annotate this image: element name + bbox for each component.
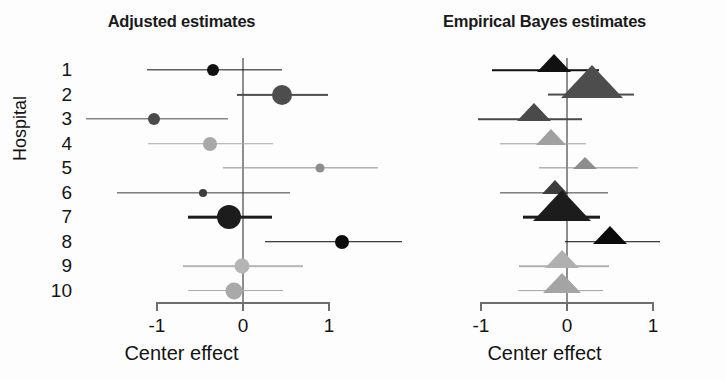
data-point-circle bbox=[335, 235, 349, 249]
data-point-triangle bbox=[536, 129, 566, 145]
y-category-label: 4 bbox=[28, 133, 72, 155]
x-axis-label: Center effect bbox=[363, 342, 726, 365]
data-point-triangle bbox=[517, 103, 551, 121]
y-category-label: 6 bbox=[28, 182, 72, 204]
y-category-label: 3 bbox=[28, 108, 72, 130]
data-point-circle bbox=[207, 64, 219, 76]
forest-plot-figure: Hospital Adjusted estimates -101Center e… bbox=[0, 0, 726, 380]
x-axis-tick bbox=[480, 302, 482, 311]
x-tick-label: 1 bbox=[324, 315, 335, 337]
panel-adjusted-estimates: Adjusted estimates -101Center effect1234… bbox=[0, 0, 363, 380]
y-category-label: 5 bbox=[28, 157, 72, 179]
y-category-label: 8 bbox=[28, 231, 72, 253]
x-axis-tick bbox=[566, 302, 568, 311]
y-category-label: 9 bbox=[28, 255, 72, 277]
data-point-circle bbox=[203, 137, 217, 151]
y-category-label: 7 bbox=[28, 206, 72, 228]
y-category-label: 2 bbox=[28, 84, 72, 106]
x-tick-label: 1 bbox=[648, 315, 659, 337]
data-point-triangle bbox=[543, 273, 581, 293]
data-point-triangle bbox=[545, 250, 579, 268]
data-point-circle bbox=[226, 282, 243, 299]
x-axis-tick bbox=[242, 302, 244, 311]
x-axis-label: Center effect bbox=[0, 342, 363, 365]
data-point-triangle bbox=[533, 190, 591, 221]
y-category-label: 1 bbox=[28, 59, 72, 81]
plot-area-empirical-bayes: -101Center effect bbox=[363, 0, 726, 380]
data-point-circle bbox=[272, 85, 292, 105]
data-point-triangle bbox=[561, 65, 623, 98]
panel-empirical-bayes: Empirical Bayes estimates -101Center eff… bbox=[363, 0, 726, 380]
data-point-triangle bbox=[593, 226, 627, 244]
confidence-interval-line bbox=[223, 167, 378, 168]
x-tick-label: 0 bbox=[238, 315, 249, 337]
x-axis-tick bbox=[156, 302, 158, 311]
x-tick-label: -1 bbox=[149, 315, 166, 337]
x-tick-label: -1 bbox=[473, 315, 490, 337]
x-axis-tick bbox=[652, 302, 654, 311]
plot-area-adjusted: -101Center effect12345678910 bbox=[0, 0, 363, 380]
y-category-label: 10 bbox=[28, 280, 72, 302]
data-point-circle bbox=[316, 164, 325, 173]
data-point-circle bbox=[217, 205, 241, 229]
data-point-circle bbox=[199, 189, 207, 197]
data-point-triangle bbox=[573, 157, 597, 169]
x-tick-label: 0 bbox=[562, 315, 573, 337]
data-point-circle bbox=[235, 259, 250, 274]
x-axis-tick bbox=[328, 302, 330, 311]
data-point-circle bbox=[148, 113, 160, 125]
